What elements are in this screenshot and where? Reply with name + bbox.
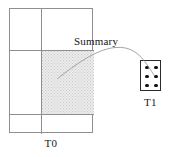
table-column-divider — [41, 9, 42, 134]
table-row-divider-top — [10, 50, 94, 51]
t1-dot-r1c1 — [145, 66, 149, 70]
target-box-t1 — [140, 60, 161, 91]
source-table-label: T0 — [9, 137, 93, 149]
t1-dot-r2c2 — [154, 75, 158, 79]
source-table-t0 — [9, 8, 93, 133]
t1-dot-r2c1 — [145, 75, 149, 79]
table-row-divider-bottom — [10, 114, 94, 115]
highlighted-cell — [41, 50, 94, 114]
t1-dot-r3c1 — [145, 84, 149, 88]
t1-dot-r3c2 — [154, 84, 158, 88]
t1-dot-r1c2 — [154, 66, 158, 70]
target-box-label: T1 — [136, 96, 165, 108]
summary-arrow-label: Summary — [74, 35, 118, 47]
summary-diagram: T0 T1 Summary — [0, 0, 170, 157]
